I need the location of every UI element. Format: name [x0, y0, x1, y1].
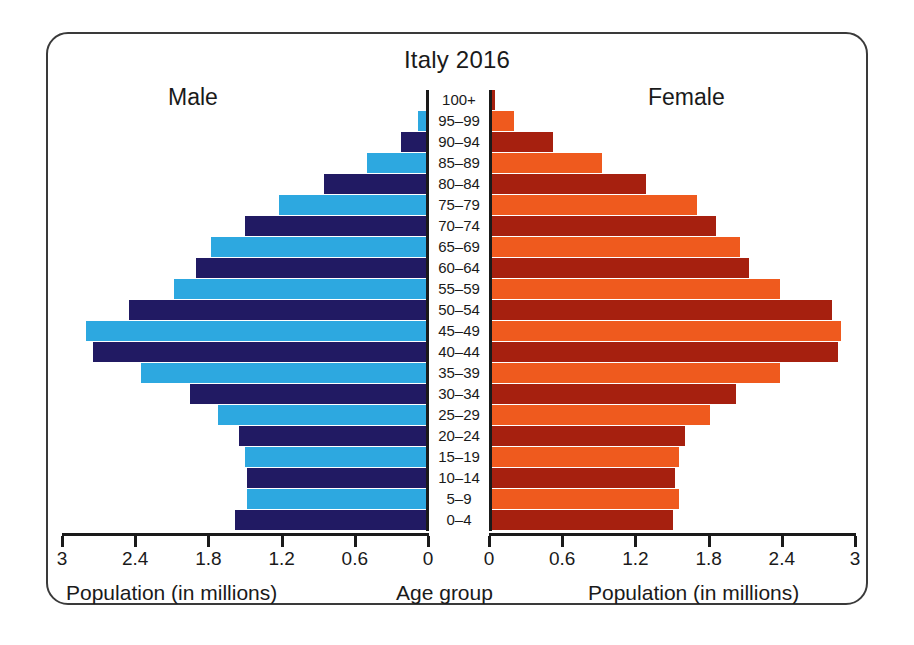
bar-female-35–39: [490, 363, 780, 383]
bar-row: [490, 363, 856, 383]
age-label-65–69: 65–69: [428, 237, 490, 257]
bar-male-45–49: [86, 321, 428, 341]
bar-row: [490, 237, 856, 257]
female-x-tick-labels: 00.61.21.82.43: [489, 548, 856, 570]
x-tick-label: 2.4: [769, 548, 795, 570]
age-label-10–14: 10–14: [428, 468, 490, 488]
bar-row: [62, 237, 428, 257]
bar-row: [62, 258, 428, 278]
x-tick-label: 0.6: [342, 548, 368, 570]
bar-row: [490, 342, 856, 362]
bar-female-80–84: [490, 174, 646, 194]
bar-female-15–19: [490, 447, 679, 467]
x-tick-label: 0: [484, 548, 495, 570]
bar-male-50–54: [129, 300, 428, 320]
x-tick-label: 1.2: [622, 548, 648, 570]
bar-row: [62, 195, 428, 215]
bar-male-85–89: [367, 153, 428, 173]
age-label-15–19: 15–19: [428, 447, 490, 467]
bar-female-55–59: [490, 279, 780, 299]
male-zero-axis: [426, 90, 429, 531]
age-label-40–44: 40–44: [428, 342, 490, 362]
bar-row: [490, 195, 856, 215]
bar-male-70–74: [245, 216, 428, 236]
bar-row: [62, 279, 428, 299]
bar-row: [62, 405, 428, 425]
female-zero-axis: [489, 90, 492, 531]
age-label-45–49: 45–49: [428, 321, 490, 341]
age-label-95–99: 95–99: [428, 111, 490, 131]
x-tick: [61, 536, 64, 547]
bar-row: [62, 132, 428, 152]
age-group-labels: 100+95–9990–9485–8980–8475–7970–7465–696…: [428, 90, 490, 531]
age-label-75–79: 75–79: [428, 195, 490, 215]
bar-female-40–44: [490, 342, 838, 362]
bar-row: [490, 90, 856, 110]
x-tick-label: 3: [57, 548, 68, 570]
bar-row: [490, 384, 856, 404]
bar-row: [490, 468, 856, 488]
male-x-tick-labels: 32.41.81.20.60: [62, 548, 429, 570]
bar-female-50–54: [490, 300, 832, 320]
bar-female-30–34: [490, 384, 736, 404]
x-tick: [281, 536, 284, 547]
x-tick-label: 0: [423, 548, 434, 570]
age-label-85–89: 85–89: [428, 153, 490, 173]
x-tick-label: 0.6: [549, 548, 575, 570]
bar-row: [62, 174, 428, 194]
bar-male-40–44: [93, 342, 429, 362]
bar-row: [62, 111, 428, 131]
bar-row: [490, 489, 856, 509]
age-label-55–59: 55–59: [428, 279, 490, 299]
bar-female-95–99: [490, 111, 514, 131]
age-label-100+: 100+: [428, 90, 490, 110]
bar-row: [62, 363, 428, 383]
age-label-80–84: 80–84: [428, 174, 490, 194]
age-label-5–9: 5–9: [428, 489, 490, 509]
bar-male-10–14: [247, 468, 428, 488]
bar-male-80–84: [324, 174, 428, 194]
age-label-30–34: 30–34: [428, 384, 490, 404]
bar-row: [490, 300, 856, 320]
x-tick: [207, 536, 210, 547]
male-bars: [62, 90, 428, 531]
bar-male-35–39: [141, 363, 428, 383]
bar-row: [490, 153, 856, 173]
bar-row: [490, 132, 856, 152]
bar-row: [62, 426, 428, 446]
x-tick: [134, 536, 137, 547]
age-label-90–94: 90–94: [428, 132, 490, 152]
bar-female-20–24: [490, 426, 685, 446]
bar-row: [62, 300, 428, 320]
age-label-60–64: 60–64: [428, 258, 490, 278]
age-label-25–29: 25–29: [428, 405, 490, 425]
bar-row: [490, 279, 856, 299]
bar-male-55–59: [174, 279, 428, 299]
x-tick: [561, 536, 564, 547]
population-pyramid-plot: Male Female 100+95–9990–9485–8980–8475–7…: [48, 34, 870, 607]
bar-male-65–69: [211, 237, 428, 257]
x-tick-label: 3: [850, 548, 861, 570]
x-tick: [488, 536, 491, 547]
bar-male-60–64: [196, 258, 428, 278]
bar-female-90–94: [490, 132, 553, 152]
x-tick: [634, 536, 637, 547]
age-label-0–4: 0–4: [428, 510, 490, 530]
bar-female-75–79: [490, 195, 697, 215]
bar-row: [62, 90, 428, 110]
bar-row: [62, 510, 428, 530]
bar-female-60–64: [490, 258, 749, 278]
bar-row: [490, 426, 856, 446]
female-bars: [490, 90, 856, 531]
bar-row: [490, 111, 856, 131]
bar-male-90–94: [401, 132, 428, 152]
x-tick-label: 1.8: [195, 548, 221, 570]
female-axis-title: Population (in millions): [588, 581, 799, 605]
bar-female-10–14: [490, 468, 675, 488]
age-label-70–74: 70–74: [428, 216, 490, 236]
x-tick: [708, 536, 711, 547]
male-axis-title: Population (in millions): [66, 581, 277, 605]
bar-female-65–69: [490, 237, 740, 257]
bar-female-0–4: [490, 510, 673, 530]
bar-row: [490, 216, 856, 236]
